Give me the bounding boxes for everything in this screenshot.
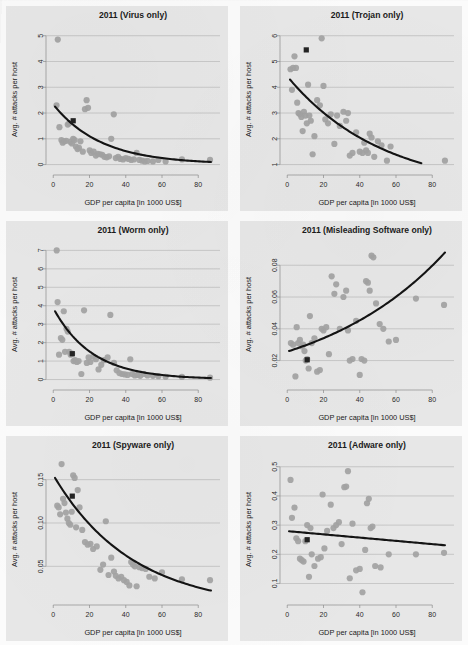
data-point	[80, 149, 86, 155]
data-point	[72, 475, 78, 481]
data-point	[333, 281, 339, 287]
data-point	[81, 307, 87, 313]
x-tick-label: 40	[356, 611, 364, 618]
data-point-group	[53, 36, 213, 164]
data-point	[300, 559, 306, 565]
data-point	[146, 574, 152, 580]
data-point	[295, 538, 301, 544]
data-point	[287, 477, 293, 483]
data-point	[56, 504, 62, 510]
data-point	[359, 589, 365, 595]
x-axis-label: GDP per capita [in 1000 US$]	[318, 198, 415, 207]
data-point	[57, 511, 63, 517]
data-point	[293, 65, 299, 71]
y-tick-label: 0.08	[271, 258, 278, 272]
data-point	[294, 324, 300, 330]
data-point	[334, 113, 340, 119]
x-tick-label: 80	[428, 396, 436, 403]
y-tick-label: 4	[271, 85, 278, 89]
x-tick-label: 0	[285, 611, 289, 618]
y-tick-label: 0.02	[271, 354, 278, 368]
y-axis-label: Avg. # attacks per host	[10, 492, 19, 567]
y-tick-label: 0.5	[271, 462, 278, 472]
y-tick-label: 0.3	[271, 520, 278, 530]
data-point	[369, 523, 375, 529]
data-point	[108, 555, 114, 561]
y-tick-label: 3	[271, 111, 278, 115]
data-point	[368, 134, 374, 140]
data-point	[105, 572, 111, 578]
data-point	[362, 547, 368, 553]
data-point	[336, 519, 342, 525]
x-tick-label: 80	[428, 181, 436, 188]
data-point	[320, 83, 326, 89]
data-point	[144, 158, 150, 164]
x-tick-label: 40	[356, 396, 364, 403]
data-point	[306, 574, 312, 580]
y-axis-label: Avg. # attacks per host	[10, 62, 19, 137]
data-point	[339, 541, 345, 547]
x-tick-label: 0	[285, 181, 289, 188]
data-point	[311, 563, 317, 569]
data-point	[77, 138, 83, 144]
panel-title: 2011 (Worm only)	[98, 225, 169, 235]
x-tick-label: 40	[356, 181, 364, 188]
scatter-plot-svg: 2011 (Adware only)0.10.20.30.40.50204060…	[240, 436, 462, 641]
data-point	[343, 484, 349, 490]
data-point	[67, 522, 73, 528]
y-tick-label: 0.1	[271, 579, 278, 589]
data-point	[331, 141, 337, 147]
data-point	[105, 354, 111, 360]
panel-background: 2011 (Adware only)0.10.20.30.40.50204060…	[240, 436, 462, 641]
data-point	[58, 461, 64, 467]
data-point	[441, 302, 447, 308]
data-point	[349, 150, 355, 156]
data-point	[343, 118, 349, 124]
data-point	[372, 563, 378, 569]
data-point	[108, 136, 114, 142]
panel-title: 2011 (Virus only)	[99, 10, 167, 20]
chart-panel-5: 2011 (Spyware only)0.050.100.15020406080…	[0, 430, 234, 645]
fitted-trend-line	[55, 311, 211, 378]
data-point	[61, 500, 67, 506]
data-point	[61, 308, 67, 314]
data-point	[413, 296, 419, 302]
data-point	[56, 124, 62, 130]
chart-panel-4: 2011 (Misleading Software only)0.020.040…	[234, 215, 468, 430]
x-tick-label: 60	[158, 611, 166, 618]
panel-title: 2011 (Adware only)	[328, 440, 406, 450]
data-point	[294, 100, 300, 106]
y-tick-label: 6	[37, 267, 44, 271]
data-point	[331, 291, 337, 297]
data-point	[325, 120, 331, 126]
scatter-plot-svg: 2011 (Worm only)01234567020406080GDP per…	[6, 221, 228, 426]
y-tick-label: 3	[37, 85, 44, 89]
highlight-square-marker	[305, 357, 310, 362]
data-point-group	[287, 35, 448, 164]
y-tick-label: 0	[37, 377, 44, 381]
y-axis-label: Avg. # attacks per host	[244, 62, 253, 137]
highlight-square-marker	[70, 351, 75, 356]
y-tick-label: 2	[271, 137, 278, 141]
x-axis-label: GDP per capita [in 1000 US$]	[84, 628, 181, 637]
x-tick-label: 20	[320, 396, 328, 403]
data-point	[365, 280, 371, 286]
y-tick-label: 0.15	[37, 473, 44, 487]
y-tick-label: 1	[37, 359, 44, 363]
data-point	[373, 300, 379, 306]
data-point	[442, 158, 448, 164]
data-point	[106, 153, 112, 159]
data-point	[292, 373, 298, 379]
x-tick-label: 20	[86, 396, 94, 403]
x-tick-label: 0	[285, 396, 289, 403]
data-point	[306, 365, 312, 371]
x-tick-label: 0	[51, 611, 55, 618]
y-tick-label: 6	[271, 34, 278, 38]
data-point	[85, 105, 91, 111]
data-point	[319, 35, 325, 41]
data-point	[349, 356, 355, 362]
data-point	[311, 133, 317, 139]
panel-background: 2011 (Virus only)012345020406080GDP per …	[6, 6, 228, 211]
data-point	[78, 371, 84, 377]
data-point	[55, 36, 61, 42]
